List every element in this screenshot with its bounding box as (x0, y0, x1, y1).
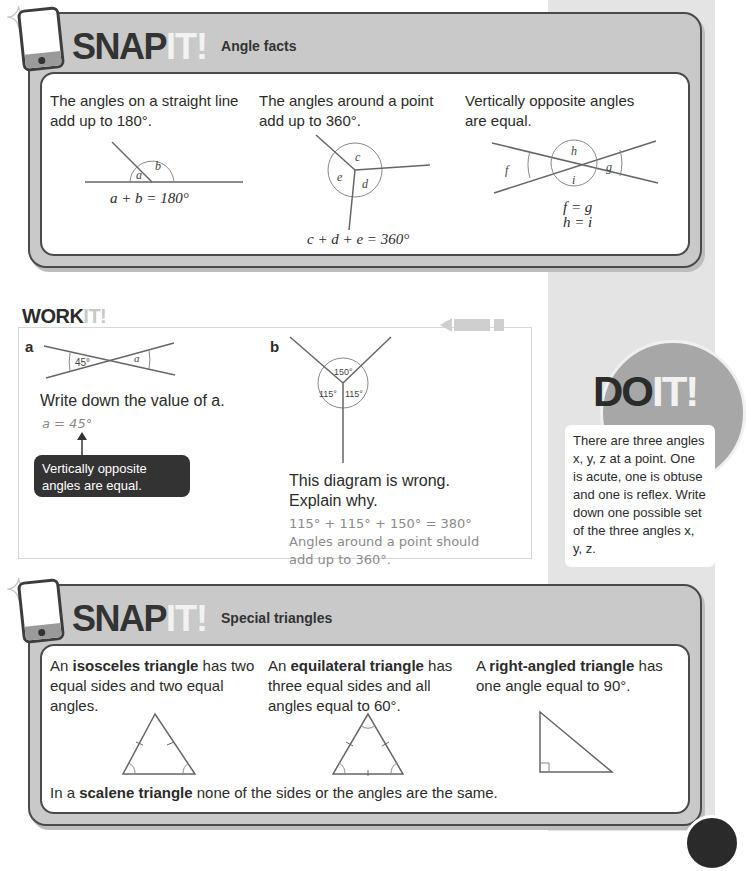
snapit-subtitle: Angle facts (221, 38, 296, 54)
snapit-subtitle: Special triangles (221, 610, 332, 626)
question-b-text-2: Explain why. (289, 491, 378, 511)
straight-line-diagram: a b (80, 135, 250, 185)
snap-brand: SNAP (72, 26, 166, 68)
angle-label-h: h (571, 144, 577, 158)
phone-icon (17, 578, 65, 644)
question-b-answer-1: 115° + 115° + 150° = 380° (289, 514, 472, 534)
angle-label-c: c (355, 150, 361, 164)
angle-label-a: a (136, 168, 142, 182)
question-b-label: b (270, 338, 279, 355)
vertically-opposite-diagram: h f g i (488, 138, 663, 198)
doit-task: There are three angles x, y, z at a poin… (565, 425, 715, 567)
page-number-tab (684, 815, 740, 871)
around-point-text: The angles around a point add up to 360°… (259, 91, 449, 131)
snap-brand-it: IT! (166, 598, 207, 640)
around-point-diagram: c d e (310, 130, 470, 235)
isosceles-triangle-diagram (120, 712, 200, 776)
doit-heading: DOIT! (593, 368, 697, 416)
equilateral-text: An equilateral triangle has three equal … (268, 656, 468, 716)
right-angled-triangle-diagram (537, 710, 617, 774)
vertically-opposite-equation-2: h = i (563, 214, 592, 230)
question-a-label: a (25, 338, 33, 355)
angle-label-e: e (337, 170, 343, 184)
question-b-text-1: This diagram is wrong. (289, 471, 450, 491)
vertically-opposite-text: Vertically opposite angles are equal. (465, 91, 650, 131)
snapit-heading: SNAP IT! Angle facts (72, 26, 296, 68)
angle-150-label: 150° (334, 367, 353, 377)
snapit-heading: SNAP IT! Special triangles (72, 598, 332, 640)
snap-brand: SNAP (72, 598, 166, 640)
angle-label-i: i (572, 173, 575, 187)
pencil-icon (440, 318, 512, 332)
snap-brand-it: IT! (166, 26, 207, 68)
isosceles-text: An isosceles triangle has two equal side… (50, 656, 260, 716)
question-a-answer: a = 45° (42, 414, 92, 434)
scalene-text: In a scalene triangle none of the sides … (50, 783, 670, 803)
angle-label-f: f (505, 163, 510, 177)
hint-callout: Vertically opposite angles are equal. (34, 455, 190, 497)
around-point-equation: c + d + e = 360° (307, 230, 409, 248)
straight-line-equation: a + b = 180° (110, 189, 189, 207)
equilateral-triangle-diagram (330, 712, 410, 776)
right-angled-text: A right-angled triangle has one angle eq… (476, 656, 686, 696)
question-a-diagram: 45° a (40, 338, 185, 383)
angle-label-b: b (155, 159, 161, 173)
vertically-opposite-equation-1: f = g (563, 199, 592, 215)
angle-a-label: a (134, 352, 140, 364)
workit-heading: WORKIT! (22, 305, 106, 328)
straight-line-text: The angles on a straight line add up to … (50, 91, 250, 131)
angle-115-right-label: 115° (345, 389, 363, 399)
question-a-text: Write down the value of a. (40, 391, 225, 411)
angle-45-label: 45° (75, 357, 90, 368)
angle-label-g: g (606, 160, 612, 174)
angle-label-d: d (362, 177, 369, 191)
question-b-answer-2: Angles around a point should (289, 532, 479, 552)
angle-115-left-label: 115° (319, 389, 337, 399)
question-b-answer-3: add up to 360°. (289, 550, 391, 570)
phone-icon (17, 6, 65, 72)
question-b-diagram: 150° 115° 115° (285, 335, 395, 470)
